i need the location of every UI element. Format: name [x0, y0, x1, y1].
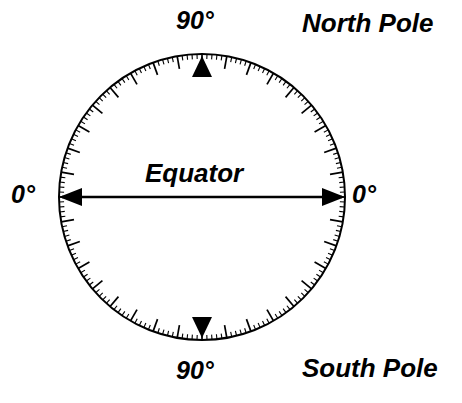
tick-major — [92, 105, 102, 113]
tick-major — [110, 297, 118, 307]
tick-major — [131, 310, 138, 321]
equator-text-label: Equator — [145, 160, 243, 186]
tick-major — [286, 297, 294, 307]
tick-major — [92, 281, 102, 289]
latitude-circle-diagram — [0, 0, 462, 403]
tick-major — [153, 63, 157, 75]
tick-major — [302, 281, 312, 289]
east-equator-degree-label: 0° — [352, 182, 376, 207]
tick-major — [61, 172, 74, 174]
figure-canvas: 90° North Pole 0° 0° Equator 90° South P… — [0, 0, 462, 403]
tick-major — [246, 63, 250, 75]
south-pole-marker-icon — [192, 317, 212, 338]
tick-major — [324, 241, 336, 245]
north-pole-marker-icon — [192, 56, 212, 77]
tick-major — [267, 73, 274, 84]
west-equator-degree-label: 0° — [11, 182, 35, 207]
tick-major — [324, 148, 336, 152]
tick-major — [110, 87, 118, 97]
tick-major — [267, 310, 274, 321]
tick-major — [246, 319, 250, 331]
tick-major — [78, 262, 89, 269]
tick-major — [131, 73, 138, 84]
tick-major — [315, 126, 326, 133]
tick-major — [68, 241, 80, 245]
tick-major — [177, 56, 179, 69]
tick-major — [330, 172, 343, 174]
tick-major — [68, 148, 80, 152]
north-pole-text-label: North Pole — [302, 10, 433, 36]
equator-arrowhead-right-icon — [322, 188, 345, 206]
north-pole-degree-label: 90° — [176, 8, 214, 33]
tick-major — [302, 105, 312, 113]
tick-major — [286, 87, 294, 97]
south-pole-degree-label: 90° — [176, 358, 214, 383]
tick-major — [225, 325, 227, 338]
tick-major — [78, 126, 89, 133]
tick-major — [177, 325, 179, 338]
tick-major — [315, 262, 326, 269]
equator-arrowhead-left-icon — [59, 188, 82, 206]
tick-major — [330, 220, 343, 222]
equator-axis-arrow — [59, 188, 345, 206]
tick-major — [153, 319, 157, 331]
tick-major — [61, 220, 74, 222]
south-pole-text-label: South Pole — [302, 355, 438, 381]
tick-major — [225, 56, 227, 69]
